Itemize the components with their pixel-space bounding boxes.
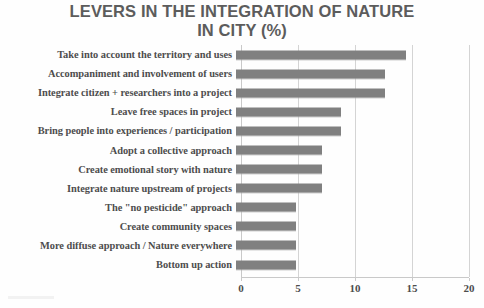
- x-tick-label: 0: [238, 282, 244, 294]
- x-axis-ticks: 05101520: [241, 278, 469, 298]
- bar-cell: [236, 45, 484, 64]
- category-label: Integrate citizen + researchers into a p…: [0, 87, 236, 98]
- x-tick-label: 5: [295, 282, 301, 294]
- tick-mark-0: [241, 278, 242, 281]
- bar-cell: [236, 83, 484, 102]
- bar: [236, 222, 296, 231]
- category-label: Take into account the territory and uses: [0, 49, 236, 60]
- bar: [236, 146, 322, 155]
- bar-row: Bottom up action: [0, 255, 484, 274]
- bar-cell: [236, 236, 484, 255]
- bar-row: Bring people into experiences / particip…: [0, 121, 484, 140]
- chart-title: LEVERS IN THE INTEGRATION OF NATURE IN C…: [14, 2, 470, 40]
- bar-cell: [236, 140, 484, 159]
- bar: [236, 50, 406, 59]
- category-label: Create community spaces: [0, 221, 236, 232]
- bar-cell: [236, 64, 484, 83]
- category-label: The "no pesticide" approach: [0, 202, 236, 213]
- scan-artifact: [8, 296, 54, 299]
- bar-cell: [236, 255, 484, 274]
- bar-cell: [236, 102, 484, 121]
- bar-cell: [236, 179, 484, 198]
- bar-row: The "no pesticide" approach: [0, 198, 484, 217]
- plot-area: Take into account the territory and uses…: [0, 45, 484, 277]
- x-tick-label: 20: [464, 282, 475, 294]
- x-tick-label: 15: [407, 282, 418, 294]
- category-label: Accompaniment and involvement of users: [0, 68, 236, 79]
- bar: [236, 107, 341, 116]
- bar-row: Create community spaces: [0, 217, 484, 236]
- category-label: Leave free spaces in project: [0, 106, 236, 117]
- bar: [236, 203, 296, 212]
- category-label: Bring people into experiences / particip…: [0, 125, 236, 136]
- bar-cell: [236, 217, 484, 236]
- bar-row: Create emotional story with nature: [0, 160, 484, 179]
- bar-row: Integrate nature upstream of projects: [0, 179, 484, 198]
- category-label: Adopt a collective approach: [0, 145, 236, 156]
- bar-row: Accompaniment and involvement of users: [0, 64, 484, 83]
- bar-chart: LEVERS IN THE INTEGRATION OF NATURE IN C…: [0, 0, 484, 308]
- bar: [236, 241, 296, 250]
- bar-row: More diffuse approach / Nature everywher…: [0, 236, 484, 255]
- bar: [236, 184, 322, 193]
- category-label: Bottom up action: [0, 259, 236, 270]
- bar-cell: [236, 160, 484, 179]
- bar-row: Leave free spaces in project: [0, 102, 484, 121]
- category-label: Create emotional story with nature: [0, 164, 236, 175]
- bar-row: Integrate citizen + researchers into a p…: [0, 83, 484, 102]
- bar: [236, 88, 385, 97]
- category-label: Integrate nature upstream of projects: [0, 183, 236, 194]
- tick-mark-15: [412, 278, 413, 281]
- x-tick-label: 10: [350, 282, 361, 294]
- bar: [236, 126, 341, 135]
- bar: [236, 165, 322, 174]
- bar: [236, 69, 385, 78]
- bar-row: Adopt a collective approach: [0, 140, 484, 159]
- bar-row: Take into account the territory and uses: [0, 45, 484, 64]
- bar-cell: [236, 198, 484, 217]
- bar-cell: [236, 121, 484, 140]
- category-label: More diffuse approach / Nature everywher…: [0, 240, 236, 251]
- tick-mark-5: [298, 278, 299, 281]
- tick-mark-10: [355, 278, 356, 281]
- bar: [236, 260, 296, 269]
- tick-mark-20: [469, 278, 470, 281]
